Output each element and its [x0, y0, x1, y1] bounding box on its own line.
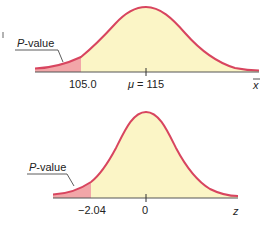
top-chart: P-value 105.0 μ = 115 x [3, 7, 260, 91]
top-pvalue-leader [15, 50, 63, 62]
bottom-pvalue-leader [27, 174, 74, 186]
top-pvalue-label: P-value [17, 37, 54, 49]
top-axis-label: x [252, 79, 259, 91]
bottom-axis-label: z [232, 205, 239, 217]
top-critical-label: 105.0 [69, 78, 97, 90]
bottom-zero-label: 0 [142, 204, 148, 216]
top-mean-label: μ = 115 [127, 78, 164, 90]
bottom-pvalue-label: P-value [29, 161, 66, 173]
bottom-critical-label: −2.04 [78, 204, 106, 216]
figure: P-value 105.0 μ = 115 x P-value −2.04 0 … [0, 0, 274, 232]
bottom-chart: P-value −2.04 0 z [27, 112, 239, 217]
